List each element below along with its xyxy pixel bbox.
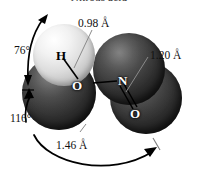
bond-length-label-o-n: 1.46 Å xyxy=(56,140,87,152)
atom-label-nitrogen: N xyxy=(118,74,127,87)
bond-angle-label-h-o-n: 76° xyxy=(14,45,30,57)
nitrous-acid-molecular-figure: Nitrous acid xyxy=(0,0,198,182)
atom-label-oxygen-carbonyl: O xyxy=(130,107,140,120)
atom-label-oxygen-hydroxyl: O xyxy=(72,79,82,92)
atom-label-hydrogen: H xyxy=(56,49,66,62)
bond-angle-label-o-n-o: 116° xyxy=(10,113,31,125)
bond-length-label-n-o-double: 1.20 Å xyxy=(150,50,181,62)
bond-length-label-h-o: 0.98 Å xyxy=(78,18,109,30)
atom-sphere-nitrogen xyxy=(93,33,165,105)
